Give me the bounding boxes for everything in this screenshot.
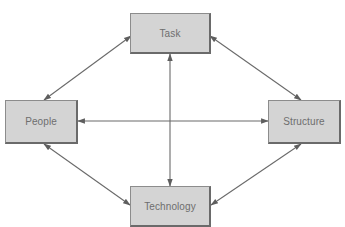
node-structure: Structure [268,100,341,144]
arrow-task-people [44,36,131,100]
node-task: Task [130,13,211,54]
arrow-people-technology [44,144,130,205]
node-technology-label: Technology [144,201,196,212]
node-structure-label: Structure [283,116,324,127]
arrow-task-structure [210,36,301,100]
node-people: People [5,100,78,144]
arrow-structure-technology [211,144,301,205]
node-task-label: Task [160,28,181,39]
node-technology: Technology [130,186,211,227]
node-people-label: People [25,116,57,127]
